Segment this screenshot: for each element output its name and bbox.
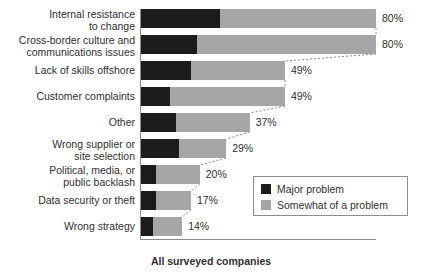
bar-row: Lack of skills offshore49% [0, 61, 422, 80]
x-axis-line [140, 239, 376, 240]
bar-segment-somewhat [179, 139, 226, 158]
stacked-bar [141, 87, 285, 106]
bar-segment-major [141, 191, 156, 210]
bar-segment-major [141, 9, 220, 28]
bar-segment-major [141, 87, 170, 106]
legend-item-somewhat: Somewhat of a problem [261, 197, 407, 213]
stacked-bar [141, 9, 376, 28]
stacked-bar [141, 191, 191, 210]
stacked-bar [141, 35, 376, 54]
bar-chart: Internal resistance to change80%Cross-bo… [0, 0, 422, 274]
bar-value-label: 80% [382, 38, 403, 50]
bar-row: Wrong strategy14% [0, 217, 422, 236]
stacked-bar [141, 217, 182, 236]
bar-value-label: 37% [256, 116, 277, 128]
bar-segment-major [141, 113, 176, 132]
stacked-bar [141, 61, 285, 80]
chart-legend: Major problem Somewhat of a problem [253, 176, 408, 216]
bar-value-label: 20% [206, 168, 227, 180]
bar-value-label: 14% [188, 220, 209, 232]
bar-value-label: 17% [197, 194, 218, 206]
bar-segment-somewhat [170, 87, 285, 106]
bar-row: Cross-border culture and communications … [0, 35, 422, 54]
stacked-bar [141, 165, 200, 184]
bar-segment-major [141, 35, 197, 54]
bar-segment-major [141, 139, 179, 158]
legend-swatch-somewhat-icon [261, 200, 271, 210]
category-label: Customer complaints [0, 91, 135, 103]
bar-segment-somewhat [197, 35, 376, 54]
bar-row: Customer complaints49% [0, 87, 422, 106]
bar-segment-somewhat [156, 191, 191, 210]
bar-segment-somewhat [156, 165, 200, 184]
bar-segment-somewhat [220, 9, 376, 28]
bar-segment-somewhat [176, 113, 249, 132]
bar-value-label: 49% [291, 64, 312, 76]
category-label: Other [0, 117, 135, 129]
bar-segment-somewhat [191, 61, 285, 80]
legend-label-somewhat: Somewhat of a problem [277, 199, 388, 211]
bar-segment-major [141, 165, 156, 184]
legend-item-major: Major problem [261, 181, 407, 197]
category-label: Lack of skills offshore [0, 65, 135, 77]
bar-segment-major [141, 61, 191, 80]
chart-footer-title: All surveyed companies [0, 255, 422, 267]
legend-label-major: Major problem [277, 183, 344, 195]
bar-segment-somewhat [153, 217, 182, 236]
legend-swatch-major-icon [261, 184, 271, 194]
stacked-bar [141, 139, 226, 158]
bar-value-label: 49% [291, 90, 312, 102]
bar-value-label: 80% [382, 12, 403, 24]
category-label: Wrong supplier or site selection [0, 139, 135, 162]
bar-value-label: 29% [232, 142, 253, 154]
category-label: Data security or theft [0, 195, 135, 207]
bar-row: Internal resistance to change80% [0, 9, 422, 28]
bar-row: Other37% [0, 113, 422, 132]
category-label: Political, media, or public backlash [0, 165, 135, 188]
bar-segment-major [141, 217, 153, 236]
category-label: Internal resistance to change [0, 9, 135, 32]
bar-row: Wrong supplier or site selection29% [0, 139, 422, 158]
stacked-bar [141, 113, 250, 132]
category-label: Wrong strategy [0, 221, 135, 233]
category-label: Cross-border culture and communications … [0, 35, 135, 58]
